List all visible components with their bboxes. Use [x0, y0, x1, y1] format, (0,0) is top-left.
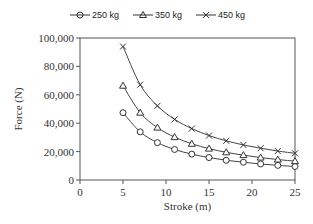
x-marker-icon — [154, 103, 160, 109]
chart-plot: 020,00040,00060,00080,000100,00005101520… — [0, 0, 313, 224]
circle-marker-icon — [120, 110, 126, 116]
circle-marker-icon — [206, 155, 212, 161]
x-tick-label: 25 — [290, 186, 302, 198]
x-marker-icon — [189, 126, 195, 132]
circle-marker-icon — [240, 159, 246, 165]
series-line — [123, 47, 295, 154]
x-tick-label: 0 — [77, 186, 83, 198]
x-tick-label: 5 — [120, 186, 126, 198]
circle-marker-icon — [223, 157, 229, 163]
circle-marker-icon — [172, 146, 178, 152]
y-axis-label: Force (N) — [12, 87, 25, 130]
circle-marker-icon — [292, 164, 298, 170]
triangle-marker-icon — [171, 134, 178, 140]
x-marker-icon — [223, 138, 229, 144]
circle-marker-icon — [189, 151, 195, 157]
triangle-marker-icon — [154, 124, 161, 130]
circle-marker-icon — [137, 129, 143, 135]
x-tick-label: 20 — [247, 186, 259, 198]
triangle-marker-icon — [120, 82, 127, 88]
x-tick-label: 15 — [204, 186, 216, 198]
x-marker-icon — [137, 82, 143, 88]
y-tick-label: 80,000 — [44, 60, 75, 72]
x-marker-icon — [120, 44, 126, 50]
y-tick-label: 100,000 — [38, 32, 74, 44]
y-tick-label: 40,000 — [44, 117, 75, 129]
y-tick-label: 60,000 — [44, 89, 75, 101]
x-marker-icon — [206, 133, 212, 139]
x-marker-icon — [172, 116, 178, 122]
y-tick-label: 20,000 — [44, 146, 75, 158]
y-tick-label: 0 — [69, 174, 75, 186]
x-axis-label: Stroke (m) — [164, 200, 212, 213]
circle-marker-icon — [258, 161, 264, 167]
x-tick-label: 10 — [161, 186, 173, 198]
circle-marker-icon — [275, 162, 281, 168]
circle-marker-icon — [154, 140, 160, 146]
